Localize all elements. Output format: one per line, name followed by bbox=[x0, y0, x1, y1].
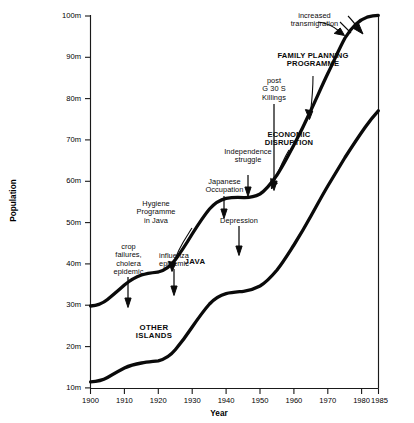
population-growth-chart: 100m 90m 80m 70m 60m 50m 40m 30m 20m 10m… bbox=[0, 0, 414, 423]
y-tick-label-50m: 50m bbox=[49, 218, 81, 227]
x-tick-label-1940: 1940 bbox=[211, 396, 241, 405]
x-tick-label-1930: 1930 bbox=[177, 396, 207, 405]
x-tick-label-1900: 1900 bbox=[76, 396, 106, 405]
x-axis-ticks bbox=[91, 389, 379, 395]
annotation-japanese-occupation: Japanese Occupation bbox=[197, 178, 252, 195]
annotation-family-planning-programme: FAMILY PLANNING PROGRAMME bbox=[261, 52, 365, 69]
x-tick-label-1910: 1910 bbox=[109, 396, 139, 405]
y-axis-ticks bbox=[85, 16, 91, 388]
annotation-influenza-epidemic: influenza epidemic bbox=[148, 252, 200, 269]
y-tick-label-70m: 70m bbox=[49, 135, 81, 144]
y-tick-label-30m: 30m bbox=[49, 300, 81, 309]
y-tick-label-10m: 10m bbox=[49, 383, 81, 392]
annotation-hygiene-programme: Hygiene Programme in Java bbox=[126, 200, 186, 225]
x-tick-label-1970: 1970 bbox=[313, 396, 343, 405]
x-tick-label-1960: 1960 bbox=[279, 396, 309, 405]
leader-influenza bbox=[171, 269, 177, 296]
x-axis-title: Year bbox=[199, 409, 239, 418]
annotation-independence-struggle: Independence struggle bbox=[214, 148, 282, 165]
y-tick-label-20m: 20m bbox=[49, 342, 81, 351]
y-tick-label-80m: 80m bbox=[49, 94, 81, 103]
x-tick-label-1985: 1985 bbox=[365, 396, 395, 405]
y-tick-label-90m: 90m bbox=[49, 52, 81, 61]
y-tick-label-40m: 40m bbox=[49, 259, 81, 268]
annotation-g30s-killings: post G 30 S Killings bbox=[252, 77, 296, 102]
x-tick-label-1950: 1950 bbox=[245, 396, 275, 405]
leader-depression bbox=[236, 226, 242, 256]
y-tick-label-100m: 100m bbox=[49, 11, 81, 20]
y-tick-label-60m: 60m bbox=[49, 176, 81, 185]
x-tick-label-1920: 1920 bbox=[143, 396, 173, 405]
leader-family-planning bbox=[305, 76, 313, 120]
annotation-economic-disruption: ECONOMIC DISRUPTION bbox=[255, 131, 323, 148]
annotation-depression: Depression bbox=[211, 217, 267, 225]
annotation-increased-transmigration: increased transmigration bbox=[283, 12, 346, 29]
series-label-other-islands: OTHER ISLANDS bbox=[131, 324, 177, 341]
y-axis-title: Population bbox=[9, 171, 18, 231]
annotation-crop-failures: crop failures, cholera epidemic bbox=[105, 243, 152, 277]
